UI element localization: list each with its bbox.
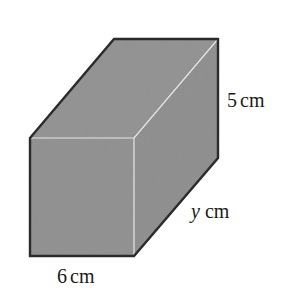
width-unit: cm (70, 265, 95, 287)
width-label: 6cm (57, 265, 95, 287)
height-label: 5cm (227, 89, 265, 111)
cuboid-front-face (30, 138, 134, 256)
width-value: 6 (57, 265, 67, 287)
height-value: 5 (227, 89, 237, 111)
depth-variable: y (189, 200, 200, 223)
cuboid-diagram: 5cm ycm 6cm (0, 0, 286, 297)
depth-label: ycm (189, 200, 230, 223)
depth-unit: cm (205, 200, 230, 222)
height-unit: cm (240, 89, 265, 111)
